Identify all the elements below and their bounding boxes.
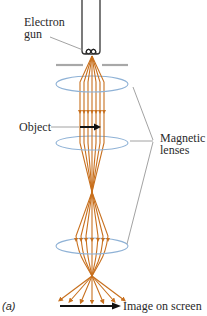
image-arrow [60, 303, 121, 310]
electron-gun [82, 0, 100, 54]
object-arrow [80, 124, 101, 131]
electron-microscope-diagram [0, 0, 207, 316]
leader-lines [50, 37, 153, 244]
image-on-screen-label: Image on screen [123, 300, 202, 312]
panel-label: (a) [2, 300, 15, 312]
electron-beam [60, 56, 124, 302]
beam-direction-arrows [78, 110, 106, 114]
magnetic-lenses-label: Magnetic lenses [160, 132, 205, 156]
electron-gun-label: Electron gun [24, 16, 65, 40]
object-label: Object [19, 121, 51, 133]
beam-direction-arrows-lower [74, 238, 110, 242]
